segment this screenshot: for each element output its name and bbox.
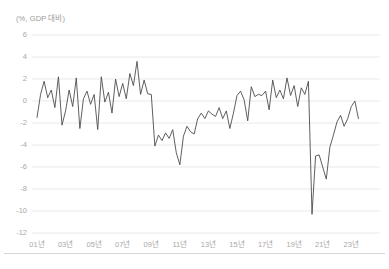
x-tick-labels-group: 01년03년05년07년09년11년13년15년17년19년21년23년 (29, 239, 359, 249)
y-axis-tick-label: -4 (20, 140, 27, 149)
chart-plot-area: 6420-2-4-6-8-10-12 01년03년05년07년09년11년13년… (0, 0, 389, 269)
x-axis-tick-label: 07년 (115, 239, 130, 249)
y-axis-tick-label: -2 (20, 118, 27, 127)
x-axis-tick-label: 11년 (172, 239, 187, 249)
x-axis-tick-label: 03년 (58, 239, 73, 249)
y-axis-tick-label: -6 (20, 162, 27, 171)
x-axis-tick-label: 17년 (258, 239, 273, 249)
x-axis-tick-label: 05년 (86, 239, 101, 249)
y-axis-tick-label: 2 (23, 74, 27, 83)
y-tick-labels-group: 6420-2-4-6-8-10-12 (16, 30, 27, 237)
x-axis-tick-label: 09년 (144, 239, 159, 249)
footer-divider (4, 253, 385, 254)
data-line-group (37, 61, 358, 214)
y-axis-tick-label: 0 (23, 96, 27, 105)
x-axis-tick-label: 15년 (229, 239, 244, 249)
x-axis-tick-label: 21년 (315, 239, 330, 249)
x-axis-tick-label: 13년 (201, 239, 216, 249)
y-axis-tick-label: -8 (20, 184, 27, 193)
x-axis-tick-label: 23년 (344, 239, 359, 249)
y-axis-tick-label: -12 (16, 228, 27, 237)
y-axis-tick-label: 4 (23, 52, 27, 61)
y-axis-tick-label: -10 (16, 206, 27, 215)
series-line-fiscal-balance (37, 61, 358, 214)
fiscal-balance-chart: (%, GDP 대비) 6420-2-4-6-8-10-12 01년03년05년… (0, 0, 389, 269)
x-axis-tick-label: 01년 (29, 239, 44, 249)
x-axis-tick-label: 19년 (286, 239, 301, 249)
gridlines-group (32, 35, 380, 233)
y-axis-tick-label: 6 (23, 30, 27, 39)
